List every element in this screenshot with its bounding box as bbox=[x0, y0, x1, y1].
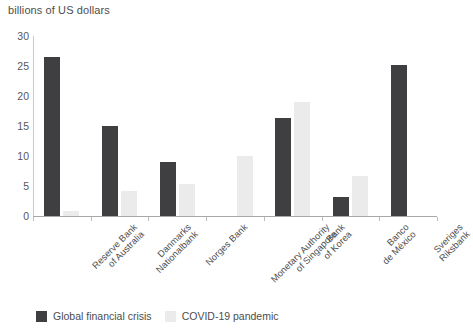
bar-gfc bbox=[44, 57, 60, 216]
legend-label: COVID-19 pandemic bbox=[182, 310, 279, 322]
bar-gfc bbox=[102, 126, 118, 216]
bar-covid bbox=[294, 102, 310, 216]
x-axis-category-labels: Reserve Bank of AustraliaDanmarks Nation… bbox=[0, 216, 444, 296]
x-axis-category-label: Banco de México bbox=[374, 222, 419, 267]
legend-item[interactable]: COVID-19 pandemic bbox=[165, 310, 279, 322]
bar-gfc bbox=[333, 197, 349, 216]
bar-group bbox=[44, 36, 79, 216]
bar-gfc bbox=[275, 118, 291, 216]
x-axis-tick bbox=[379, 217, 380, 221]
bar-group bbox=[275, 36, 310, 216]
legend-swatch-covid-icon bbox=[165, 311, 176, 322]
bar-covid bbox=[237, 156, 253, 216]
x-axis-category-label: Sveriges Riksbank bbox=[430, 222, 472, 264]
bar-group bbox=[218, 36, 253, 216]
legend-swatch-gfc-icon bbox=[36, 311, 47, 322]
y-axis-tick-label: 20 bbox=[3, 91, 29, 101]
bar-covid bbox=[352, 176, 368, 216]
x-axis-category-label: Reserve Bank of Australia bbox=[90, 222, 146, 278]
x-axis-tick bbox=[33, 217, 34, 221]
x-axis-tick bbox=[264, 217, 265, 221]
y-axis-tick-label: 10 bbox=[3, 151, 29, 161]
plot-area bbox=[33, 36, 437, 216]
y-axis-tick-label: 15 bbox=[3, 121, 29, 131]
y-axis-tick-label: 25 bbox=[3, 61, 29, 71]
bar-gfc bbox=[160, 162, 176, 216]
x-axis-tick bbox=[91, 217, 92, 221]
x-axis-tick bbox=[206, 217, 207, 221]
bar-covid bbox=[179, 184, 195, 216]
legend-label: Global financial crisis bbox=[53, 310, 152, 322]
bar-group bbox=[160, 36, 195, 216]
x-axis-tick bbox=[437, 217, 438, 221]
y-axis-tick-label: 5 bbox=[3, 181, 29, 191]
bar-covid bbox=[121, 191, 137, 216]
y-axis-tick-label: 30 bbox=[3, 31, 29, 41]
legend-item[interactable]: Global financial crisis bbox=[36, 310, 152, 322]
x-axis-tick bbox=[148, 217, 149, 221]
bar-gfc bbox=[391, 65, 407, 216]
bar-group bbox=[333, 36, 368, 216]
chart-legend: Global financial crisisCOVID-19 pandemic bbox=[36, 310, 279, 322]
x-axis-category-label: Norges Bank bbox=[204, 222, 250, 268]
y-axis-tick-labels: 051015202530 bbox=[0, 36, 29, 217]
chart-axis-unit-title: billions of US dollars bbox=[8, 4, 110, 16]
x-axis-tick bbox=[322, 217, 323, 221]
bar-group bbox=[102, 36, 137, 216]
x-axis-category-label: Danmarks Nationalbank bbox=[147, 222, 201, 276]
bar-group bbox=[391, 36, 426, 216]
